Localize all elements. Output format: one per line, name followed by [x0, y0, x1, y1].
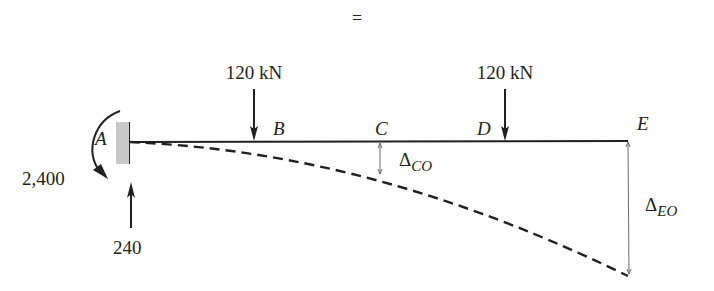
moment-arrow-head-icon: [93, 164, 108, 179]
point-label-e: E: [636, 113, 649, 134]
equals-sign: =: [352, 8, 362, 28]
cantilever-beam-diagram: = 2,400 240 A B C D E 120 kN 120 kN ΔCO …: [0, 0, 714, 291]
load-label-b: 120 kN: [226, 62, 283, 83]
point-label-d: D: [476, 118, 491, 139]
fixed-wall-support: [116, 122, 129, 164]
point-label-c: C: [375, 118, 388, 139]
deflection-label-c: ΔCO: [399, 149, 432, 174]
vertical-reaction-label: 240: [113, 237, 142, 258]
moment-reaction-label: 2,400: [22, 168, 65, 189]
point-label-b: B: [273, 118, 285, 139]
deflected-shape-curve: [130, 142, 628, 276]
load-label-d: 120 kN: [477, 62, 534, 83]
beam: [130, 141, 628, 142]
point-label-a: A: [93, 128, 107, 149]
deflection-label-e: ΔEO: [645, 194, 677, 219]
deflection-dimension-e: [628, 142, 629, 274]
